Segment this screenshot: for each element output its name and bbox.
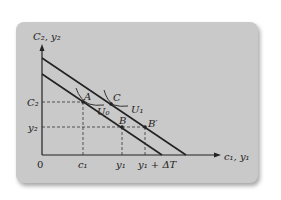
origin-label: 0 <box>37 159 43 170</box>
x-axis-arrow-icon <box>214 153 221 158</box>
label-b: B <box>118 115 126 126</box>
budget-constraint-diagram: C₂, y₂ c₁, y₁ 0 C₂ y₂ c₁ y₁ y₁ + ΔT A B … <box>0 0 281 200</box>
shifted-budget-line <box>42 58 186 155</box>
tick-y2: y₂ <box>27 122 38 133</box>
y-axis-label: C₂, y₂ <box>33 31 61 42</box>
tick-c2: C₂ <box>27 97 39 108</box>
tick-c1: c₁ <box>78 159 88 170</box>
tick-y1-plus-dt: y₁ + ΔT <box>137 159 178 170</box>
label-a: A <box>83 91 91 102</box>
label-c: C <box>113 92 121 103</box>
point-b-prime <box>143 125 147 129</box>
tick-y1: y₁ <box>115 159 126 170</box>
y-axis-arrow-icon <box>40 44 45 51</box>
x-axis-label: c₁, y₁ <box>224 151 250 162</box>
label-u0: U₀ <box>97 106 109 117</box>
label-u1: U₁ <box>131 104 143 115</box>
label-b-prime: B′ <box>147 118 158 129</box>
